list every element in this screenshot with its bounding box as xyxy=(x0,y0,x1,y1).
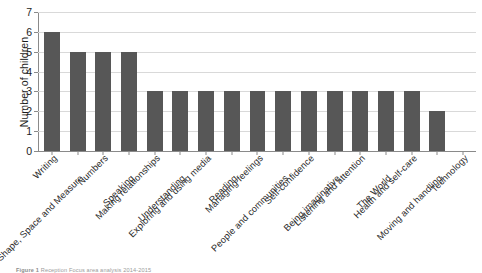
bar[interactable] xyxy=(44,32,60,151)
plot-area: 01234567 xyxy=(38,12,476,151)
caption-label: Figure 1 xyxy=(16,267,39,273)
y-tick-label-2: 2 xyxy=(26,106,32,117)
y-tick-6 xyxy=(34,32,38,33)
bar-slot[interactable] xyxy=(347,12,373,151)
bar-slot[interactable] xyxy=(142,12,168,151)
bar[interactable] xyxy=(70,52,86,151)
bar-slot[interactable] xyxy=(296,12,322,151)
y-tick-2 xyxy=(34,111,38,112)
y-tick-label-4: 4 xyxy=(26,66,32,77)
bar-slot[interactable] xyxy=(245,12,271,151)
y-tick-7 xyxy=(34,12,38,13)
bar-slot[interactable] xyxy=(39,12,65,151)
x-axis-label: Exploring and using media xyxy=(127,153,213,239)
x-axis-label: Shape, Space and Measure xyxy=(0,173,85,263)
y-tick-label-5: 5 xyxy=(26,46,32,57)
y-tick-label-7: 7 xyxy=(26,7,32,18)
y-tick-4 xyxy=(34,72,38,73)
bar[interactable] xyxy=(429,111,445,151)
bar[interactable] xyxy=(327,91,343,151)
bar[interactable] xyxy=(198,91,214,151)
bar[interactable] xyxy=(95,52,111,151)
y-tick-label-1: 1 xyxy=(26,126,32,137)
bar-slot[interactable] xyxy=(65,12,91,151)
bar-slot[interactable] xyxy=(116,12,142,151)
bar[interactable] xyxy=(378,91,394,151)
bar-slot[interactable] xyxy=(373,12,399,151)
y-tick-3 xyxy=(34,91,38,92)
y-tick-5 xyxy=(34,52,38,53)
bar-slot[interactable] xyxy=(270,12,296,151)
caption-text: Reception Focus area analysis 2014-2015 xyxy=(41,267,152,273)
bar[interactable] xyxy=(275,91,291,151)
bar-slot[interactable] xyxy=(399,12,425,151)
bar[interactable] xyxy=(121,52,137,151)
bar-slot[interactable] xyxy=(425,12,451,151)
bar[interactable] xyxy=(147,91,163,151)
y-tick-label-0: 0 xyxy=(26,146,32,157)
bar[interactable] xyxy=(224,91,240,151)
bar-slot[interactable] xyxy=(450,12,476,151)
y-tick-label-6: 6 xyxy=(26,27,32,38)
x-axis-label: Numbers xyxy=(76,153,110,187)
x-axis-labels-group: WritingShape, Space and MeasureNumbersSp… xyxy=(38,151,476,256)
bar-slot[interactable] xyxy=(193,12,219,151)
bar[interactable] xyxy=(301,91,317,151)
y-tick-label-3: 3 xyxy=(26,86,32,97)
y-tick-1 xyxy=(34,131,38,132)
bar-slot[interactable] xyxy=(168,12,194,151)
bar-slot[interactable] xyxy=(90,12,116,151)
x-axis-label: Writing xyxy=(31,153,59,181)
bar-slot[interactable] xyxy=(322,12,348,151)
bar[interactable] xyxy=(352,91,368,151)
bar-slot[interactable] xyxy=(219,12,245,151)
bars-group xyxy=(39,12,476,151)
bar[interactable] xyxy=(404,91,420,151)
bar[interactable] xyxy=(250,91,266,151)
bar[interactable] xyxy=(172,91,188,151)
figure-caption: Figure 1 Reception Focus area analysis 2… xyxy=(16,267,151,273)
